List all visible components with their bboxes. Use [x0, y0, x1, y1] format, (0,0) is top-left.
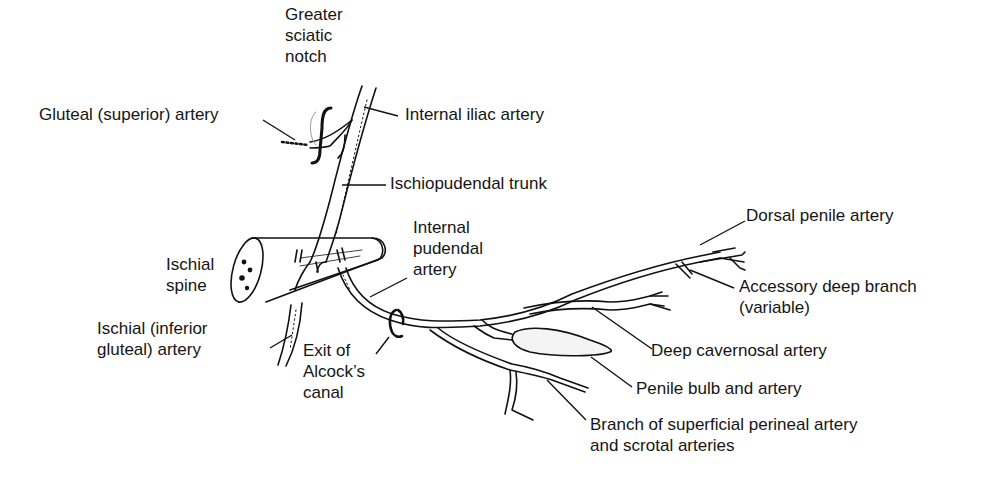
label-line: and scrotal arteries [590, 435, 857, 456]
label-line: Greater [285, 4, 343, 25]
label-line: (variable) [739, 297, 917, 318]
label-line: artery [413, 259, 483, 280]
label-penile-bulb-and-artery: Penile bulb and artery [636, 378, 801, 399]
internal-pudendal-vessel [338, 252, 720, 328]
label-accessory-deep-branch: Accessory deep branch (variable) [739, 276, 917, 318]
label-dorsal-penile-artery: Dorsal penile artery [746, 205, 893, 226]
label-deep-cavernosal-artery: Deep cavernosal artery [651, 340, 827, 361]
label-ischiopudendal-trunk: Ischiopudendal trunk [390, 173, 547, 194]
label-line: Accessory deep branch [739, 276, 917, 297]
label-line: Ischial (inferior [97, 318, 208, 339]
internal-iliac-vessel [310, 86, 376, 262]
label-gluteal-superior-artery: Gluteal (superior) artery [39, 104, 219, 125]
label-ischial-inferior-gluteal-artery: Ischial (inferior gluteal) artery [97, 318, 208, 360]
label-line: sciatic [285, 25, 343, 46]
label-internal-pudendal-artery: Internal pudendal artery [413, 217, 483, 280]
label-line: gluteal) artery [97, 339, 208, 360]
label-line: canal [303, 382, 365, 403]
label-internal-iliac-artery: Internal iliac artery [405, 104, 544, 125]
label-line: notch [285, 46, 343, 67]
label-line: Internal [413, 217, 483, 238]
label-line: Branch of superficial perineal artery [590, 414, 857, 435]
label-exit-alcocks-canal: Exit of Alcock’s canal [303, 340, 365, 403]
label-line: Exit of [303, 340, 365, 361]
label-line: Alcock’s [303, 361, 365, 382]
label-greater-sciatic-notch: Greater sciatic notch [285, 4, 343, 67]
label-line: spine [166, 275, 214, 296]
label-superficial-perineal-branch: Branch of superficial perineal artery an… [590, 414, 857, 456]
label-ischial-spine: Ischial spine [166, 254, 214, 296]
dorsal-penile-branch [676, 248, 745, 278]
penile-bulb [512, 328, 611, 356]
label-line: Ischial [166, 254, 214, 275]
label-line: pudendal [413, 238, 483, 259]
